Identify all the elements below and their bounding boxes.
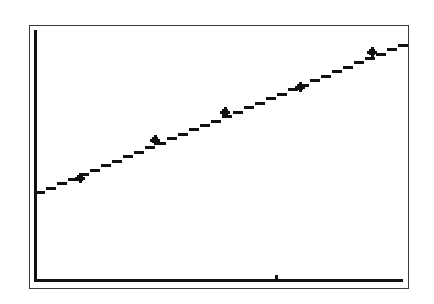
line-segment: [266, 97, 276, 100]
line-segment: [200, 124, 210, 127]
scatter-plot: [0, 0, 434, 304]
line-segment: [332, 70, 342, 73]
line-segment: [387, 48, 397, 51]
regression-line: [35, 44, 408, 194]
line-segment: [101, 164, 111, 167]
line-segment: [398, 44, 408, 47]
line-segment: [167, 137, 177, 140]
line-segment: [90, 169, 100, 172]
plus-mark-icon: [367, 47, 377, 57]
line-segment: [277, 93, 287, 96]
line-segment: [233, 111, 243, 114]
line-segment: [134, 151, 144, 154]
line-segment: [343, 66, 353, 69]
line-segment: [35, 191, 45, 194]
x-axis-tick: [275, 275, 278, 280]
line-segment: [57, 182, 67, 185]
line-segment: [178, 133, 188, 136]
line-segment: [321, 75, 331, 78]
line-segment: [255, 102, 265, 105]
line-segment: [244, 106, 254, 109]
line-segment: [123, 155, 133, 158]
line-segment: [376, 53, 386, 56]
y-axis: [34, 30, 37, 282]
line-segment: [189, 128, 199, 131]
line-segment: [211, 120, 221, 123]
line-segment: [46, 187, 56, 190]
line-segment: [145, 146, 155, 149]
line-segment: [365, 57, 375, 60]
line-segment: [354, 61, 364, 64]
x-axis: [34, 279, 403, 282]
line-segment: [112, 160, 122, 163]
line-segment: [310, 79, 320, 82]
